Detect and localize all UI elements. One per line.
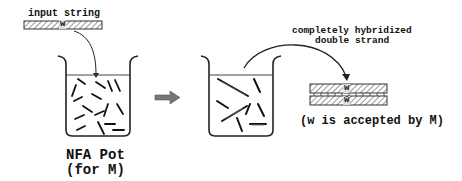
transition-arrow: [155, 91, 180, 104]
single-strands: [72, 79, 124, 134]
extract-arrow: [244, 45, 350, 81]
bottom-strand-label: w̄: [343, 96, 350, 105]
input-strand-label: w: [59, 20, 66, 29]
hybridized-strands: [217, 79, 266, 131]
top-strand-label: w: [343, 84, 350, 93]
result-pot-beaker: [201, 56, 281, 136]
result-label-line2: double strand: [315, 36, 389, 46]
insert-arrow: [74, 31, 99, 78]
input-string-label: input string: [28, 9, 100, 19]
pot-subtitle: (for M): [66, 163, 125, 177]
conclusion-label: (w is accepted by M): [300, 115, 444, 127]
pot-title: NFA Pot: [66, 148, 125, 162]
